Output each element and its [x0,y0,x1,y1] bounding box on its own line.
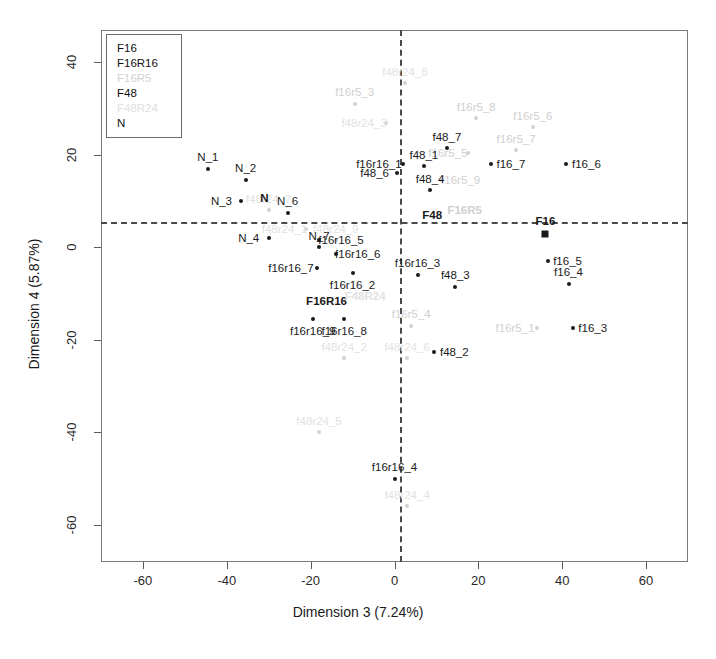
data-point-f48r24_9 [334,238,338,242]
data-point-f16r16_9 [311,317,315,321]
data-point-f48_1 [422,164,426,168]
x-tick [311,562,312,569]
marker-glyph [474,116,478,120]
marker-glyph [403,81,407,85]
y-tick-label: -40 [64,417,79,447]
x-tick [395,562,396,569]
point-label-f48_4: f48_4 [416,173,445,185]
marker-glyph [489,162,493,166]
marker-glyph [351,271,355,275]
marker-glyph [206,167,210,171]
marker-glyph [342,356,346,360]
point-label-f48_6: f48_6 [360,167,389,179]
data-point-f16r5_3 [353,102,357,106]
point-label-f16r5_7: f16r5_7 [497,133,536,145]
marker-glyph [393,477,397,481]
marker-glyph [334,238,338,242]
point-label-f16_5: f16_5 [553,255,582,267]
marker-glyph [567,282,571,286]
point-label-f48_3: f48_3 [441,269,470,281]
x-tick [562,562,563,569]
marker-glyph [405,356,409,360]
point-label-f48_7: f48_7 [433,131,462,143]
centroid-marker-n [261,207,268,214]
y-tick-label: 20 [64,140,79,170]
plot-area [101,30,688,562]
marker-glyph [342,317,346,321]
marker-glyph [395,171,399,175]
x-axis-title: Dimension 3 (7.24%) [0,604,716,620]
y-tick [94,340,101,341]
marker-glyph [405,504,409,508]
y-tick-label: -20 [64,325,79,355]
data-point-f48r24_2 [342,356,346,360]
marker-glyph [261,207,268,214]
marker-glyph [422,164,426,168]
legend-item-f16r16[interactable]: F16R16 [117,56,173,71]
legend-item-n[interactable]: N [117,116,173,131]
data-point-f48_6 [395,171,399,175]
legend[interactable]: F16F16R16F16R5F48F48R24N [106,34,182,138]
x-tick-label: 60 [639,573,653,588]
marker-glyph [571,326,575,330]
point-label-f16r5_3: f16r5_3 [335,86,374,98]
point-label-f16_6: f16_6 [572,158,601,170]
data-point-f48r24_5 [317,430,321,434]
data-point-n_7 [317,245,321,249]
centroid-label-f48: F48 [422,209,442,221]
y-tick [94,525,101,526]
legend-item-f16[interactable]: F16 [117,41,173,56]
legend-item-f16r5[interactable]: F16R5 [117,71,173,86]
marker-glyph [514,148,518,152]
point-label-f48_1: f48_1 [409,149,438,161]
centroid-label-f16r16: F16R16 [306,295,347,307]
data-point-f16r16_4 [393,477,397,481]
point-label-f16r16_6: f16r16_6 [335,248,380,260]
data-point-n_2 [244,178,248,182]
marker-glyph [317,245,321,249]
point-label-f16_7: f16_7 [497,158,526,170]
data-point-f48_3 [453,285,457,289]
centroid-marker-f48 [429,223,436,230]
point-label-f16r16_9: f16r16_9 [290,325,335,337]
x-tick-label: 20 [471,573,485,588]
x-tick-label: 0 [391,573,398,588]
data-point-f48r24_4 [405,504,409,508]
y-tick-label: 40 [64,47,79,77]
legend-item-f48[interactable]: F48 [117,86,173,101]
legend-item-f48r24[interactable]: F48R24 [117,101,173,116]
point-label-f16r16_7: f16r16_7 [268,262,313,274]
data-point-f16r5_7 [514,148,518,152]
data-point-f16_3 [571,326,575,330]
x-tick [478,562,479,569]
data-point-f16_6 [564,162,568,166]
data-point-f16r5_6 [531,125,535,129]
marker-glyph [244,178,248,182]
point-label-n_7: N_7 [308,230,329,242]
marker-glyph [564,162,568,166]
point-label-f16r16_4: f16r16_4 [372,461,417,473]
centroid-label-f16r5: F16R5 [447,204,482,216]
marker-glyph [531,125,535,129]
marker-glyph [432,350,436,354]
data-point-f16_7 [489,162,493,166]
x-tick-label: -20 [301,573,320,588]
marker-glyph [542,230,549,237]
marker-glyph [362,281,369,288]
y-tick-label: -60 [64,510,79,540]
x-tick [143,562,144,569]
data-point-f16r5_1 [535,326,539,330]
point-label-f48r24_5: f48r24_5 [296,415,341,427]
point-label-f16r16_3: f16r16_3 [395,257,440,269]
x-tick-label: -60 [134,573,153,588]
data-point-f16r5_8 [474,116,478,120]
point-label-f48r24_6: f48r24_6 [384,341,429,353]
point-label-n_6: N_6 [277,195,298,207]
marker-glyph [535,326,539,330]
point-label-n_2: N_2 [235,162,256,174]
marker-glyph [315,266,319,270]
marker-glyph [317,430,321,434]
x-tick [646,562,647,569]
data-point-f48_7 [445,146,449,150]
data-point-f48_4 [428,188,432,192]
